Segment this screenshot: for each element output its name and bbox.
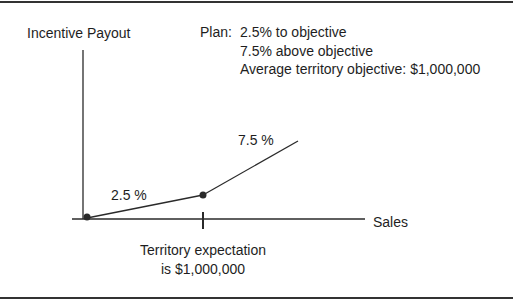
- tick-caption: Territory expectation is $1,000,000: [103, 241, 303, 278]
- tick-caption-line: Territory expectation: [103, 241, 303, 260]
- plan-line: 2.5% to objective: [240, 23, 347, 42]
- plan-line: 7.5% above objective: [240, 42, 373, 61]
- y-axis-label: Incentive Payout: [27, 25, 131, 42]
- x-axis-label: Sales: [373, 214, 408, 231]
- segment-upper: [203, 141, 298, 195]
- objective-point: [200, 192, 207, 199]
- plan-line: Average territory objective: $1,000,000: [240, 60, 480, 79]
- plan-description: Plan: 2.5% to objective 7.5% above objec…: [200, 23, 480, 79]
- upper-rate-label: 7.5 %: [238, 132, 274, 149]
- lower-rate-label: 2.5 %: [111, 187, 147, 204]
- tick-caption-line: is $1,000,000: [103, 260, 303, 279]
- plan-label: Plan:: [200, 23, 240, 42]
- origin-point: [84, 214, 91, 221]
